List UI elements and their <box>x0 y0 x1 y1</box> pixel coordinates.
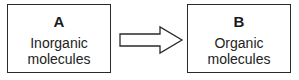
box-a-label: A <box>8 14 110 30</box>
box-b-description: Organic molecules <box>188 35 290 67</box>
box-b-line1: Organic <box>188 35 290 51</box>
box-a-description: Inorganic molecules <box>8 35 110 67</box>
box-b-organic-molecules: B Organic molecules <box>187 4 291 73</box>
box-b-label: B <box>188 14 290 30</box>
box-b-line2: molecules <box>188 51 290 67</box>
right-arrow-icon <box>118 25 186 55</box>
box-a-line2: molecules <box>8 51 110 67</box>
box-a-inorganic-molecules: A Inorganic molecules <box>7 4 111 73</box>
box-a-line1: Inorganic <box>8 35 110 51</box>
